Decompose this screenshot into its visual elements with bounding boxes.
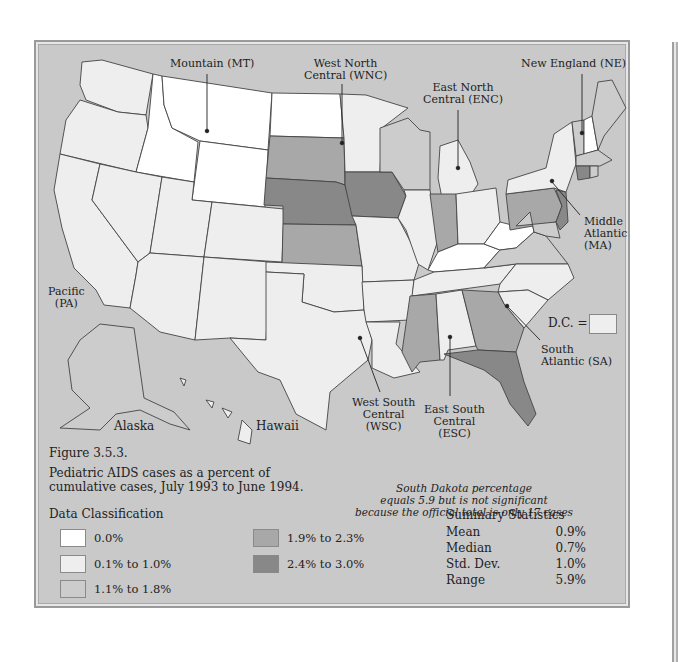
state-az [130,253,204,340]
region-label-esc: East South Central (ESC) [424,404,485,440]
state-ar [362,280,414,322]
region-label-enc-line2: Central (ENC) [423,94,503,106]
region-label-wsc-line3: (WSC) [352,421,415,433]
stats-value: 5.9% [546,572,586,588]
state-nd [270,93,344,138]
legend-swatch [253,529,279,547]
note-line2: equals 5.9 but is not significant [348,494,580,506]
label-dc: D.C. = [548,317,587,329]
legend-item-4: 2.4% to 3.0% [253,555,364,573]
region-label-pa: Pacific (PA) [48,286,85,310]
summary-statistics: Summary Statistics Mean0.9% Median0.7% S… [446,507,586,588]
legend-label: 0.1% to 1.0% [94,557,171,571]
stats-value: 0.7% [546,540,586,556]
legend-title: Data Classification [49,507,163,521]
region-label-sa: South Atlantic (SA) [541,344,612,368]
stats-row-median: Median0.7% [446,540,586,556]
stats-row-mean: Mean0.9% [446,524,586,540]
legend-swatch [253,555,279,573]
state-ny [506,122,576,194]
legend-item-0: 0.0% [60,529,123,547]
stats-label: Range [446,572,546,588]
label-hawaii: Hawaii [256,420,299,432]
state-ak [60,324,190,430]
stats-row-range: Range5.9% [446,572,586,588]
legend-item-1: 0.1% to 1.0% [60,555,171,573]
note-line1: South Dakota percentage [348,482,580,494]
legend-item-3: 1.9% to 2.3% [253,529,364,547]
state-hi [180,378,252,444]
state-nm [195,257,270,340]
state-wy [192,141,268,207]
region-label-mountain: Mountain (MT) [170,58,254,70]
dc-swatch [589,314,617,334]
state-ri [590,166,598,178]
region-label-wnc-line2: Central (WNC) [304,70,387,82]
legend-label: 0.0% [94,531,123,545]
stats-row-stddev: Std. Dev.1.0% [446,556,586,572]
state-ct [576,166,590,180]
region-label-pa-line2: (PA) [48,298,85,310]
state-me [592,80,626,150]
figure-number: Figure 3.5.3. [49,446,128,460]
stats-value: 0.9% [546,524,586,540]
stats-title: Summary Statistics [446,507,586,523]
region-label-wnc: West North Central (WNC) [304,58,387,82]
label-alaska: Alaska [114,420,154,432]
legend-label: 1.1% to 1.8% [94,582,171,596]
region-label-esc-line3: (ESC) [424,428,485,440]
legend-swatch [60,580,86,598]
state-ks [282,224,362,266]
stats-label: Std. Dev. [446,556,546,572]
stats-label: Mean [446,524,546,540]
figure-caption-line2: cumulative cases, July 1993 to June 1994… [49,480,304,494]
legend-swatch [60,555,86,573]
region-label-wsc: West South Central (WSC) [352,397,415,433]
legend-item-2: 1.1% to 1.8% [60,580,171,598]
legend-swatch [60,529,86,547]
legend-label: 2.4% to 3.0% [287,557,364,571]
state-sd [266,136,345,185]
figure-caption-line1: Pediatric AIDS cases as a percent of [49,466,304,480]
region-label-ma: Middle Atlantic (MA) [584,216,627,252]
stats-label: Median [446,540,546,556]
state-co [204,202,284,262]
stats-value: 1.0% [546,556,586,572]
region-label-enc: East North Central (ENC) [423,82,503,106]
figure-caption: Pediatric AIDS cases as a percent of cum… [49,466,304,494]
legend-label: 1.9% to 2.3% [287,531,364,545]
region-label-ne: New England (NE) [521,58,626,70]
region-label-sa-line2: Atlantic (SA) [541,356,612,368]
region-label-ma-line3: (MA) [584,240,627,252]
